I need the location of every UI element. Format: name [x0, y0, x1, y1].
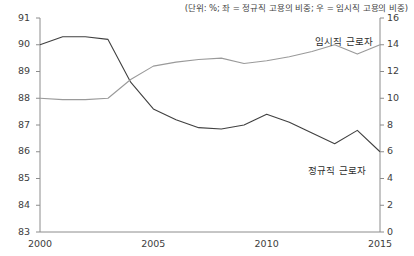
series-label-temporary-workers: 임시직 근로자	[315, 34, 372, 48]
chart-container: (단위: %; 좌 = 정규직 고용의 비중; 우 = 임시직 고용의 비중) …	[0, 0, 414, 256]
y-axis-left-tick-label: 88	[6, 92, 30, 103]
series-lines	[40, 37, 380, 152]
y-axis-right-tick-label: 6	[387, 145, 411, 156]
y-axis-left-tick-label: 84	[6, 199, 30, 210]
y-axis-left-tick-label: 89	[6, 65, 30, 76]
y-axis-left-tick-label: 87	[6, 119, 30, 130]
y-axis-left-tick-label: 86	[6, 145, 30, 156]
x-axis-tick-label: 2015	[360, 238, 400, 249]
series-line-regular-workers	[40, 37, 380, 152]
y-axis-left-tick-label: 90	[6, 38, 30, 49]
y-axis-right-tick-label: 2	[387, 199, 411, 210]
x-axis-tick-label: 2010	[247, 238, 287, 249]
series-label-regular-workers: 정규직 근로자	[308, 163, 365, 177]
y-axis-left-tick-label: 91	[6, 12, 30, 23]
y-axis-left-tick-label: 85	[6, 172, 30, 183]
y-axis-left-tick-label: 83	[6, 226, 30, 237]
axis-lines	[40, 18, 380, 232]
x-axis-tick-label: 2005	[133, 238, 173, 249]
y-axis-right-tick-label: 14	[387, 38, 411, 49]
y-axis-right-tick-label: 16	[387, 12, 411, 23]
series-line-temporary-workers	[40, 45, 380, 100]
y-axis-right-tick-label: 10	[387, 92, 411, 103]
y-axis-right-tick-label: 4	[387, 172, 411, 183]
y-axis-right-tick-label: 8	[387, 119, 411, 130]
y-axis-right-tick-label: 0	[387, 226, 411, 237]
y-axis-right-tick-label: 12	[387, 65, 411, 76]
x-axis-tick-label: 2000	[20, 238, 60, 249]
